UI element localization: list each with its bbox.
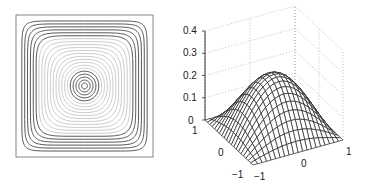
z-tick-1: 0.1 bbox=[183, 92, 197, 103]
x-tick-0: 0 bbox=[301, 158, 307, 169]
figure: 0 0.1 0.2 0.3 0.4 1 0 −1 −1 0 1 bbox=[0, 0, 365, 190]
contour-frame bbox=[16, 15, 153, 157]
y-tick-neg1: −1 bbox=[232, 169, 244, 180]
z-tick-3: 0.3 bbox=[183, 47, 197, 58]
x-tick-neg1: −1 bbox=[254, 171, 266, 182]
y-tick-0: 0 bbox=[218, 147, 224, 158]
z-tick-4: 0.4 bbox=[183, 25, 197, 36]
y-tick-1: 1 bbox=[192, 125, 198, 136]
surface-plot bbox=[202, 6, 343, 165]
z-tick-2: 0.2 bbox=[183, 70, 197, 81]
x-tick-1: 1 bbox=[346, 146, 352, 157]
contour-plot bbox=[16, 15, 153, 157]
